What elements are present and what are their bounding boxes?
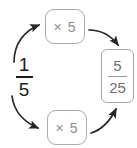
source-fraction-bar — [16, 76, 33, 78]
result-denominator: 25 — [109, 80, 126, 95]
multiplier-label-top: × 5 — [54, 19, 77, 35]
result-fraction: 5 25 — [102, 50, 133, 102]
arrow-bottom-left — [12, 96, 38, 128]
multiplier-box-top: × 5 — [45, 9, 85, 44]
arrow-top-right — [89, 30, 118, 45]
source-fraction: 1 5 — [11, 55, 37, 99]
result-fraction-box: 5 25 — [101, 49, 134, 103]
result-numerator: 5 — [113, 58, 121, 73]
equivalent-fraction-diagram: 1 5 × 5 × 5 5 25 — [0, 0, 137, 148]
multiplier-box-bottom: × 5 — [47, 110, 87, 145]
arrow-bottom-right — [91, 109, 116, 133]
multiplier-label-bottom: × 5 — [56, 120, 79, 136]
source-denominator: 5 — [19, 80, 30, 99]
result-fraction-bar — [108, 76, 127, 77]
source-numerator: 1 — [19, 55, 30, 74]
